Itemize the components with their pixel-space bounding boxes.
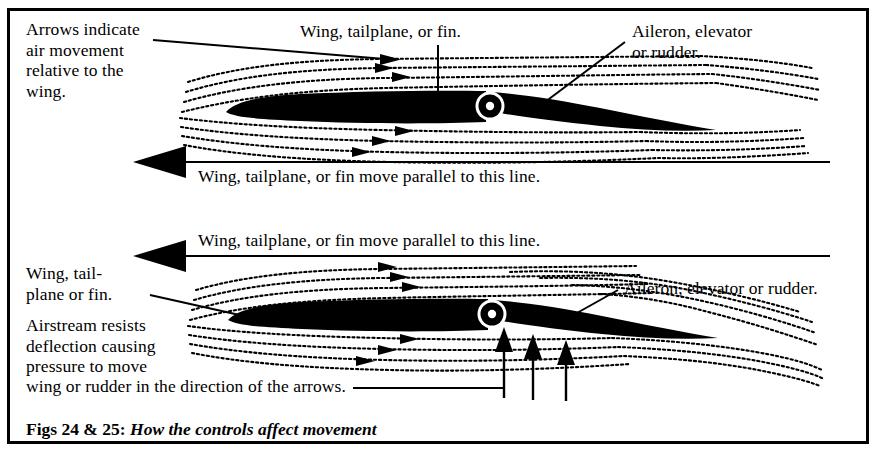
- figure-container: Arrows indicate air movement relative to…: [0, 0, 880, 453]
- panel-top-airfoil: [226, 91, 716, 131]
- label-control-surface-bottom: Aileron, elevator or rudder.: [624, 278, 818, 299]
- note-air-movement: Arrows indicate air movement relative to…: [26, 19, 140, 101]
- note-airstream-last-line: wing or rudder in the direction of the a…: [26, 376, 346, 397]
- pressure-arrow-2: [524, 334, 542, 400]
- caption-title: How the controls affect movement: [130, 419, 377, 439]
- panel-bottom-airfoil: [228, 299, 718, 339]
- label-motion-line-bottom: Wing, tailplane, or fin move parallel to…: [198, 230, 540, 251]
- note-airstream: Airstream resists deflection causing pre…: [26, 315, 156, 377]
- label-control-surface-top: Aileron, elevator or rudder.: [632, 21, 752, 62]
- label-wing-bottom: Wing, tail- plane or fin.: [26, 263, 112, 304]
- label-wing-top: Wing, tailplane, or fin.: [300, 21, 461, 42]
- label-motion-line-top: Wing, tailplane, or fin move parallel to…: [198, 166, 540, 187]
- figure-caption: Figs 24 & 25: How the controls affect mo…: [26, 419, 377, 440]
- caption-prefix: Figs 24 & 25:: [26, 419, 126, 439]
